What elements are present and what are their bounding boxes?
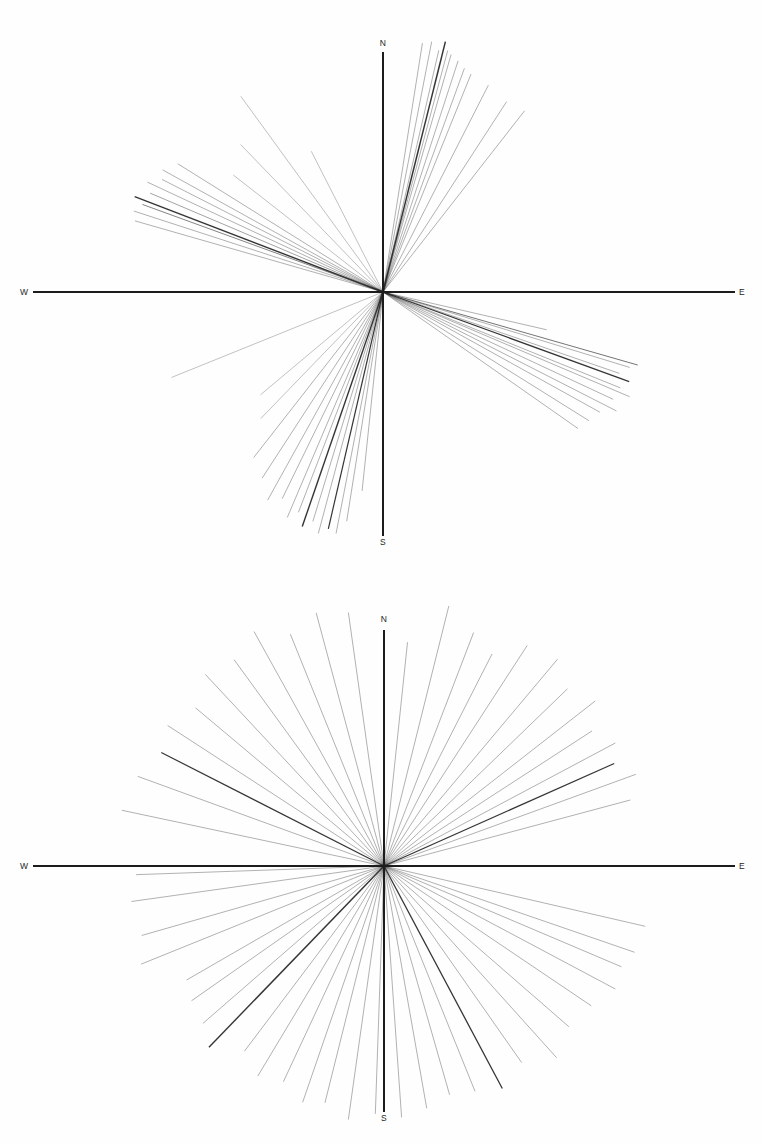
ray xyxy=(383,292,616,411)
ray xyxy=(187,866,384,980)
ray xyxy=(384,800,630,866)
ray xyxy=(178,164,383,292)
ray xyxy=(328,292,383,529)
compass-label-north: N xyxy=(381,614,387,624)
ray xyxy=(244,866,384,1051)
ray xyxy=(298,292,383,512)
ray xyxy=(384,866,569,1027)
ray xyxy=(254,632,384,866)
ray xyxy=(384,866,615,989)
ray xyxy=(131,866,384,901)
ray xyxy=(384,689,567,866)
ray xyxy=(141,866,384,964)
ray xyxy=(383,42,445,292)
compass-label-east: E xyxy=(739,861,745,871)
upper-ray-diagram-svg: N S E W xyxy=(0,0,761,572)
ray xyxy=(311,151,383,292)
ray xyxy=(135,197,383,292)
ray xyxy=(172,292,383,377)
ray xyxy=(234,660,384,866)
ray xyxy=(147,182,383,292)
ray xyxy=(384,764,614,867)
ray xyxy=(384,774,636,866)
ray xyxy=(383,292,630,397)
ray xyxy=(209,866,384,1047)
compass-label-north: N xyxy=(380,38,386,48)
ray xyxy=(268,292,383,500)
ray xyxy=(282,292,383,499)
ray xyxy=(383,292,600,412)
ray xyxy=(384,866,450,1095)
ray xyxy=(383,292,613,399)
ray xyxy=(348,612,384,866)
ray xyxy=(241,96,383,292)
ray xyxy=(384,866,645,926)
ray xyxy=(287,292,383,518)
ray xyxy=(135,221,383,292)
ray xyxy=(384,866,621,967)
ray xyxy=(383,292,638,365)
ray xyxy=(384,866,635,952)
ray xyxy=(205,674,384,866)
compass-label-east: E xyxy=(739,287,745,297)
ray xyxy=(122,810,384,866)
ray xyxy=(290,634,384,866)
ray xyxy=(384,866,502,1089)
ray xyxy=(162,179,383,292)
ray xyxy=(313,292,383,522)
ray xyxy=(384,866,402,1117)
ray xyxy=(136,866,384,875)
ray xyxy=(384,731,592,866)
ray xyxy=(241,145,383,292)
ray xyxy=(384,866,427,1108)
compass-label-west: W xyxy=(20,861,28,871)
ray xyxy=(384,866,475,1091)
ray xyxy=(383,85,488,292)
cut-off-caption-strip xyxy=(0,1130,761,1144)
ray xyxy=(384,866,591,1006)
ray xyxy=(258,866,384,1076)
ray xyxy=(383,292,629,382)
ray xyxy=(383,68,464,292)
upper-rays-group xyxy=(134,42,638,534)
ray xyxy=(383,111,525,292)
ray xyxy=(384,645,527,866)
ray xyxy=(316,613,384,866)
ray xyxy=(384,642,408,866)
compass-label-south: S xyxy=(380,537,386,547)
ray xyxy=(383,292,619,373)
ray xyxy=(168,725,384,866)
ray xyxy=(383,61,458,292)
ray xyxy=(384,866,522,1063)
ray xyxy=(384,743,615,866)
figure-page: N S E W N S E W xyxy=(0,0,761,1144)
compass-label-south: S xyxy=(381,1113,387,1123)
ray xyxy=(325,866,384,1103)
ray xyxy=(383,292,578,429)
ray xyxy=(383,292,547,330)
ray xyxy=(261,292,383,419)
ray xyxy=(161,753,384,867)
ray xyxy=(196,708,384,866)
ray xyxy=(383,292,620,388)
ray xyxy=(233,175,383,292)
lower-ray-diagram-panel: N S E W xyxy=(0,572,761,1144)
ray xyxy=(383,74,471,292)
ray xyxy=(192,866,385,1001)
upper-ray-diagram-panel: N S E W xyxy=(0,0,761,572)
ray xyxy=(138,776,384,866)
lower-ray-diagram-svg: N S E W xyxy=(0,572,761,1144)
ray xyxy=(375,866,384,1114)
ray xyxy=(383,55,451,292)
ray xyxy=(384,654,492,866)
ray xyxy=(150,193,383,292)
compass-label-west: W xyxy=(20,287,28,297)
ray xyxy=(383,292,630,367)
ray xyxy=(142,866,384,935)
